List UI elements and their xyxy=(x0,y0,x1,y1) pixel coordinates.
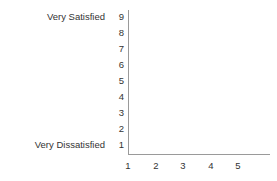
x-tick-1: 1 xyxy=(118,160,138,171)
x-tick-5: 5 xyxy=(228,160,248,171)
likert-scale-chart: Very Satisfied Very Dissatisfied 9 8 7 6… xyxy=(0,0,277,181)
x-tick-4: 4 xyxy=(201,160,221,171)
x-tick-3: 3 xyxy=(173,160,193,171)
x-axis-tick-labels: 1 2 3 4 5 xyxy=(0,0,277,181)
x-tick-2: 2 xyxy=(146,160,166,171)
